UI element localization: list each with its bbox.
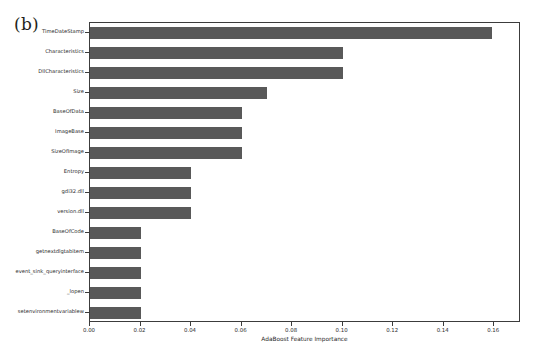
y-axis-tick-label: SizeOfImage xyxy=(0,149,84,154)
y-axis-tick-label: setenvironmentvariablew xyxy=(0,309,84,314)
x-axis-title: AdaBoost Feature Importance xyxy=(89,336,520,342)
bar xyxy=(90,227,141,239)
x-axis-tick-label: 0.06 xyxy=(235,327,247,333)
y-axis-labels: TimeDateStampCharacteristicsDllCharacter… xyxy=(0,22,89,322)
x-axis-tick-mark xyxy=(140,322,141,326)
bar-row xyxy=(90,187,519,199)
bar-row xyxy=(90,47,519,59)
bar xyxy=(90,47,343,59)
y-axis-tick-label: event_sink_queryinterface xyxy=(0,269,84,274)
x-axis-tick-label: 0.00 xyxy=(83,327,95,333)
bar xyxy=(90,87,267,99)
x-axis-tick-mark xyxy=(392,322,393,326)
y-axis-tick-label: DllCharacteristics xyxy=(0,69,84,74)
x-axis-tick-label: 0.12 xyxy=(386,327,398,333)
y-axis-tick-label: gdi32.dll xyxy=(0,189,84,194)
plot-area xyxy=(89,22,520,322)
bar-row xyxy=(90,207,519,219)
bar-row xyxy=(90,127,519,139)
bar xyxy=(90,107,242,119)
x-axis-tick-label: 0.02 xyxy=(134,327,146,333)
bar-row xyxy=(90,247,519,259)
bar xyxy=(90,127,242,139)
x-axis-tick-mark xyxy=(89,322,90,326)
bar xyxy=(90,147,242,159)
bar-row xyxy=(90,87,519,99)
y-axis-tick-label: Size xyxy=(0,89,84,94)
y-axis-tick-label: _lopen xyxy=(0,289,84,294)
bar xyxy=(90,307,141,319)
bar-row xyxy=(90,27,519,39)
x-axis-tick-label: 0.08 xyxy=(285,327,297,333)
y-axis-tick-label: Characteristics xyxy=(0,49,84,54)
y-axis-tick-label: Entropy xyxy=(0,169,84,174)
x-axis-tick-label: 0.16 xyxy=(487,327,499,333)
x-axis-tick-mark xyxy=(493,322,494,326)
x-axis-tick-mark xyxy=(241,322,242,326)
y-axis-tick-label: BaseOfCode xyxy=(0,229,84,234)
bar xyxy=(90,247,141,259)
bar-row xyxy=(90,147,519,159)
bar xyxy=(90,167,191,179)
bar xyxy=(90,187,191,199)
figure-canvas: (b) TimeDateStampCharacteristicsDllChara… xyxy=(0,0,544,356)
bar-row xyxy=(90,307,519,319)
bar xyxy=(90,67,343,79)
bar-row xyxy=(90,67,519,79)
y-axis-tick-label: BaseOfData xyxy=(0,109,84,114)
x-axis-tick-label: 0.10 xyxy=(336,327,348,333)
bar-row xyxy=(90,227,519,239)
bar xyxy=(90,267,141,279)
bar-row xyxy=(90,267,519,279)
y-axis-tick-label: version.dll xyxy=(0,209,84,214)
bar xyxy=(90,287,141,299)
x-axis-tick-mark xyxy=(342,322,343,326)
y-axis-tick-label: TimeDateStamp xyxy=(0,29,84,34)
x-axis-tick-label: 0.14 xyxy=(437,327,449,333)
bar-row xyxy=(90,167,519,179)
y-axis-tick-label: getnextdlgtabitem xyxy=(0,249,84,254)
x-axis-tick-label: 0.04 xyxy=(184,327,196,333)
x-axis-tick-mark xyxy=(190,322,191,326)
x-axis-tick-mark xyxy=(443,322,444,326)
bar xyxy=(90,27,492,39)
x-axis-tick-mark xyxy=(291,322,292,326)
bar-series xyxy=(90,23,519,321)
y-axis-tick-label: ImageBase xyxy=(0,129,84,134)
bar-row xyxy=(90,287,519,299)
bar xyxy=(90,207,191,219)
bar-row xyxy=(90,107,519,119)
